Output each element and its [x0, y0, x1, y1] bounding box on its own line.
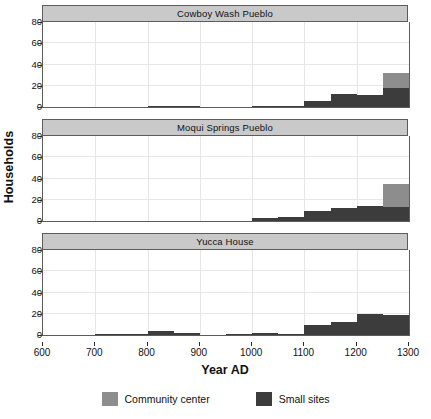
- bar-segment-small-sites: [278, 106, 304, 107]
- legend-swatch: [256, 392, 272, 406]
- y-axis: 020406080: [8, 250, 42, 335]
- panel-header-strip: Yucca House: [42, 233, 408, 250]
- histogram-bar: [304, 325, 330, 335]
- y-axis-tick-mark: [38, 271, 42, 272]
- y-axis-tick-mark: [38, 293, 42, 294]
- histogram-bar: [383, 73, 409, 107]
- x-axis-label: Year AD: [42, 363, 408, 377]
- bar-segment-small-sites: [252, 218, 278, 221]
- y-axis-tick-mark: [38, 157, 42, 158]
- x-axis-tick-label: 900: [179, 347, 219, 358]
- histogram-bar: [304, 211, 330, 221]
- bar-segment-small-sites: [252, 106, 278, 107]
- plot-area: [42, 22, 410, 108]
- bar-segment-small-sites: [383, 207, 409, 221]
- panel-title: Cowboy Wash Pueblo: [177, 8, 273, 19]
- bar-segment-small-sites: [148, 106, 174, 107]
- y-axis-tick-mark: [38, 86, 42, 87]
- gridline-horizontal: [43, 156, 409, 157]
- x-axis-tick-mark: [199, 342, 200, 346]
- x-axis-tick-label: 800: [127, 347, 167, 358]
- bar-segment-small-sites: [226, 334, 252, 335]
- bar-segment-small-sites: [331, 208, 357, 221]
- x-axis-tick-mark: [94, 342, 95, 346]
- bar-segment-small-sites: [252, 333, 278, 335]
- gridline-vertical: [200, 22, 201, 107]
- x-axis-tick-mark: [408, 342, 409, 346]
- chart-legend: Community centerSmall sites: [0, 392, 431, 406]
- y-axis-tick-mark: [38, 107, 42, 108]
- gridline-vertical: [148, 22, 149, 107]
- y-axis: 020406080: [8, 136, 42, 221]
- y-axis-tick-mark: [38, 136, 42, 137]
- y-axis-tick-mark: [38, 314, 42, 315]
- bar-segment-small-sites: [278, 334, 304, 335]
- legend-label: Community center: [125, 393, 210, 405]
- histogram-bar: [95, 334, 121, 335]
- x-axis-tick-mark: [356, 342, 357, 346]
- panel-title: Yucca House: [196, 236, 254, 247]
- gridline-vertical: [252, 250, 253, 335]
- gridline-horizontal: [43, 178, 409, 179]
- plot-area: [42, 136, 410, 222]
- y-axis-tick-mark: [38, 250, 42, 251]
- histogram-bar: [252, 218, 278, 221]
- panel-header-strip: Moqui Springs Pueblo: [42, 119, 408, 136]
- histogram-bar: [331, 208, 357, 221]
- histogram-bar: [174, 333, 200, 335]
- bar-segment-small-sites: [121, 334, 147, 335]
- bar-segment-small-sites: [304, 101, 330, 107]
- bar-segment-small-sites: [278, 217, 304, 221]
- histogram-bar: [121, 334, 147, 335]
- histogram-bar: [357, 206, 383, 221]
- bar-segment-small-sites: [331, 94, 357, 107]
- histogram-bar: [383, 184, 409, 221]
- gridline-vertical: [304, 136, 305, 221]
- bar-segment-small-sites: [383, 315, 409, 335]
- x-axis-tick-mark: [251, 342, 252, 346]
- y-axis: 020406080: [8, 22, 42, 107]
- gridline-vertical: [200, 250, 201, 335]
- y-axis-tick-mark: [38, 200, 42, 201]
- y-axis-tick-mark: [38, 22, 42, 23]
- x-axis-tick-label: 1100: [283, 347, 323, 358]
- gridline-horizontal: [43, 199, 409, 200]
- gridline-vertical: [304, 22, 305, 107]
- gridline-horizontal: [43, 85, 409, 86]
- legend-label: Small sites: [279, 393, 330, 405]
- bar-segment-small-sites: [95, 334, 121, 335]
- bar-segment-community-center: [383, 73, 409, 88]
- histogram-bar: [148, 106, 174, 107]
- panel-title: Moqui Springs Pueblo: [177, 122, 273, 133]
- x-axis-tick-label: 1000: [231, 347, 271, 358]
- bar-segment-small-sites: [174, 106, 200, 107]
- bar-segment-small-sites: [357, 314, 383, 335]
- bar-segment-small-sites: [304, 211, 330, 221]
- x-axis-tick-label: 1300: [388, 347, 428, 358]
- y-axis-tick-mark: [38, 221, 42, 222]
- histogram-bar: [304, 101, 330, 107]
- x-axis-tick-label: 600: [22, 347, 62, 358]
- bar-segment-small-sites: [331, 322, 357, 335]
- panel-header-strip: Cowboy Wash Pueblo: [42, 5, 408, 22]
- gridline-vertical: [148, 250, 149, 335]
- histogram-bar: [148, 331, 174, 335]
- x-axis-tick-mark: [303, 342, 304, 346]
- x-axis-tick-label: 700: [74, 347, 114, 358]
- gridline-vertical: [95, 250, 96, 335]
- histogram-bar: [252, 333, 278, 335]
- bar-segment-small-sites: [304, 325, 330, 335]
- legend-item-community-center: Community center: [102, 392, 210, 406]
- gridline-horizontal: [43, 42, 409, 43]
- bar-segment-small-sites: [148, 331, 174, 335]
- legend-swatch: [102, 392, 118, 406]
- gridline-vertical: [357, 22, 358, 107]
- x-axis-tick-mark: [42, 342, 43, 346]
- x-axis-tick-label: 1200: [336, 347, 376, 358]
- gridline-vertical: [95, 136, 96, 221]
- gridline-vertical: [148, 136, 149, 221]
- histogram-bar: [331, 322, 357, 335]
- histogram-bar: [252, 106, 278, 107]
- gridline-vertical: [95, 22, 96, 107]
- y-axis-tick-mark: [38, 179, 42, 180]
